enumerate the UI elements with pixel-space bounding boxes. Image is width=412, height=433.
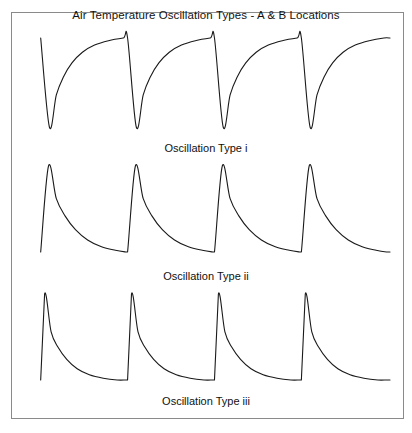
plot-oscillation-type-ii xyxy=(0,158,412,268)
caption-oscillation-type-ii: Oscillation Type ii xyxy=(0,270,412,282)
curve-svg-type-iii xyxy=(0,288,412,393)
plot-oscillation-type-i xyxy=(0,30,412,140)
panel-oscillation-type-iii: Oscillation Type iii xyxy=(0,288,412,418)
curve-path-type-iii xyxy=(41,293,390,380)
curve-path-type-i xyxy=(41,31,390,128)
panel-oscillation-type-i: Oscillation Type i xyxy=(0,30,412,165)
curve-svg-type-i xyxy=(0,30,412,140)
curve-svg-type-ii xyxy=(0,158,412,268)
plot-oscillation-type-iii xyxy=(0,288,412,393)
panel-oscillation-type-ii: Oscillation Type ii xyxy=(0,158,412,293)
caption-oscillation-type-iii: Oscillation Type iii xyxy=(0,395,412,407)
figure-root: Air Temperature Oscillation Types - A & … xyxy=(0,0,412,433)
figure-title: Air Temperature Oscillation Types - A & … xyxy=(0,9,412,21)
curve-path-type-ii xyxy=(41,165,390,252)
caption-oscillation-type-i: Oscillation Type i xyxy=(0,142,412,154)
